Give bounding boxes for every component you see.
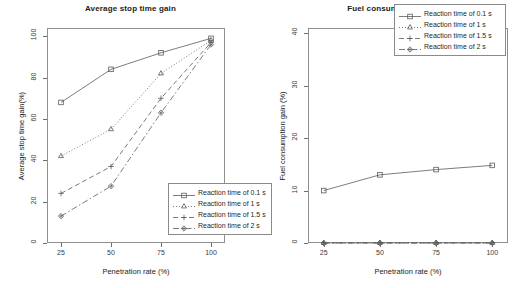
legend-item-label: Reaction time of 1.5 s [196,211,266,218]
x-tick-label: 50 [368,249,392,256]
legend-item-label: Reaction time of 1.5 s [422,32,492,39]
legend-item-label: Reaction time of 1 s [196,200,260,207]
y-tick-label: 40 [25,155,41,165]
legend-item-label: Reaction time of 0.1 s [196,189,266,196]
y-tick-label: 100 [25,31,41,41]
x-tick-label: 100 [199,249,223,256]
y-tick-mark [43,243,47,244]
chart-panel-average-stop-time-gain: Average stop time gain 02040608010025507… [0,0,261,288]
y-axis-title-left: Average stop time gain(%) [17,91,26,179]
x-tick-label: 75 [149,249,173,256]
y-tick-mark [43,202,47,203]
x-tick-mark [380,243,381,247]
legend-item-label: Reaction time of 1 s [422,21,486,28]
y-tick-label: 0 [25,238,41,248]
y-tick-label: 10 [286,186,302,196]
y-tick-mark [304,86,308,87]
x-tick-mark [492,243,493,247]
series-2 [58,40,214,197]
x-tick-mark [324,243,325,247]
legend-item-label: Reaction time of 2 s [196,222,260,229]
data-point-plus-marker [58,191,64,197]
x-tick-label: 25 [312,249,336,256]
legend-item-label: Reaction time of 2 s [422,43,486,50]
legend-item: Reaction time of 2 s [398,41,501,52]
x-tick-label: 50 [99,249,123,256]
series-0 [59,36,214,105]
x-axis-title-right: Penetration rate (%) [308,267,508,276]
y-tick-label: 40 [286,28,302,38]
legend-item: Reaction time of 1 s [172,198,267,209]
x-tick-mark [211,243,212,247]
data-point-triangle-marker [58,153,63,157]
legend-key-diamond-icon [172,220,196,231]
x-tick-mark [61,243,62,247]
y-tick-mark [304,33,308,34]
chart-panel-fuel-consumption-gain: Fuel consumption gain 010203040255075100… [262,0,523,288]
data-point-diamond-marker [158,110,163,115]
x-tick-label: 75 [424,249,448,256]
legend-key-square-icon [398,8,422,19]
y-tick-label: 60 [25,114,41,124]
data-point-triangle-marker [181,204,186,208]
legend-item: Reaction time of 1 s [398,19,501,30]
legend-key-plus-icon [398,30,422,41]
legend-item: Reaction time of 1.5 s [172,209,267,220]
y-tick-label: 80 [25,73,41,83]
x-tick-label: 25 [49,249,73,256]
x-axis-title-left: Penetration rate (%) [47,267,225,276]
x-tick-mark [111,243,112,247]
y-tick-mark [304,243,308,244]
data-point-plus-marker [108,164,114,170]
legend-key-square-icon [172,187,196,198]
y-axis-title-right: Fuel consumption gain (%) [278,91,287,180]
data-point-triangle-marker [108,126,113,130]
legend-key-diamond-icon [398,41,422,52]
legend-key-triangle-icon [172,198,196,209]
legend-item: Reaction time of 0.1 s [398,8,501,19]
y-tick-mark [43,78,47,79]
data-point-triangle-marker [407,25,412,29]
legend-item-label: Reaction time of 0.1 s [422,10,492,17]
y-tick-mark [43,160,47,161]
legend-item: Reaction time of 0.1 s [172,187,267,198]
legend-key-plus-icon [172,209,196,220]
figure-canvas: Average stop time gain 02040608010025507… [0,0,523,288]
y-tick-label: 20 [25,197,41,207]
x-tick-mark [436,243,437,247]
legend-key-triangle-icon [398,19,422,30]
data-point-diamond-marker [58,213,63,218]
legend-left: Reaction time of 0.1 sReaction time of 1… [168,183,272,235]
y-tick-mark [304,138,308,139]
legend-right: Reaction time of 0.1 sReaction time of 1… [394,4,506,56]
series-1 [321,240,495,244]
data-point-triangle-marker [158,71,163,75]
x-tick-mark [161,243,162,247]
y-tick-mark [43,119,47,120]
y-tick-label: 0 [286,238,302,248]
x-tick-label: 100 [480,249,504,256]
y-tick-label: 20 [286,133,302,143]
data-point-diamond-marker [108,183,113,188]
y-tick-mark [304,191,308,192]
legend-item: Reaction time of 2 s [172,220,267,231]
legend-item: Reaction time of 1.5 s [398,30,501,41]
y-tick-label: 30 [286,81,302,91]
y-tick-mark [43,36,47,37]
series-1 [58,38,213,158]
series-0 [321,163,494,193]
